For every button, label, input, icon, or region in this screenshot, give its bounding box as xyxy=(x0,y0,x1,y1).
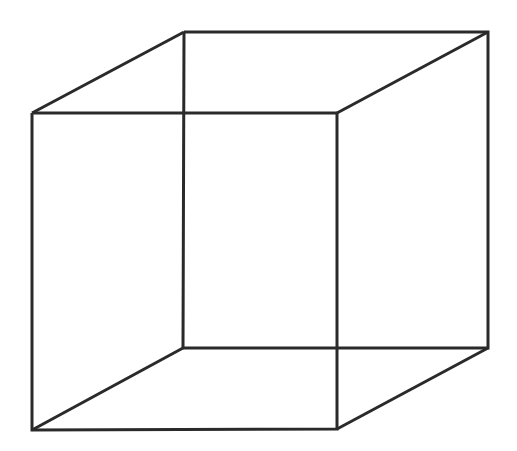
drawing-background xyxy=(0,0,517,451)
wireframe-cube-drawing xyxy=(0,0,517,451)
figure-canvas xyxy=(0,0,517,451)
